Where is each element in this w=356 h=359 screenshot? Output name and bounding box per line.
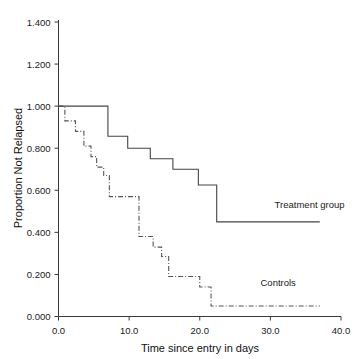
y-tick-label: 1.400 bbox=[27, 17, 51, 28]
y-tick-label: 1.200 bbox=[27, 59, 51, 70]
chart-canvas: 0.0000.2000.4000.6000.8001.0001.2001.400… bbox=[0, 0, 356, 359]
y-tick-label: 0.800 bbox=[27, 143, 51, 154]
chart-background bbox=[0, 0, 356, 359]
x-tick-label: 10.0 bbox=[120, 325, 139, 336]
x-tick-label: 0.0 bbox=[52, 325, 65, 336]
x-tick-label: 20.0 bbox=[191, 325, 210, 336]
x-tick-label: 40.0 bbox=[332, 325, 351, 336]
y-axis-title: Proportion Not Relapsed bbox=[12, 108, 24, 228]
y-tick-label: 1.000 bbox=[27, 101, 51, 112]
y-tick-label: 0.600 bbox=[27, 185, 51, 196]
x-tick-label: 30.0 bbox=[261, 325, 280, 336]
series-annotation-treatment-group: Treatment group bbox=[275, 199, 345, 210]
y-tick-label: 0.200 bbox=[27, 269, 51, 280]
y-tick-label: 0.400 bbox=[27, 227, 51, 238]
kaplan-meier-chart: 0.0000.2000.4000.6000.8001.0001.2001.400… bbox=[0, 0, 356, 359]
x-axis-title: Time since entry in days bbox=[141, 342, 260, 354]
y-tick-label: 0.000 bbox=[27, 311, 51, 322]
series-annotation-controls: Controls bbox=[260, 277, 296, 288]
